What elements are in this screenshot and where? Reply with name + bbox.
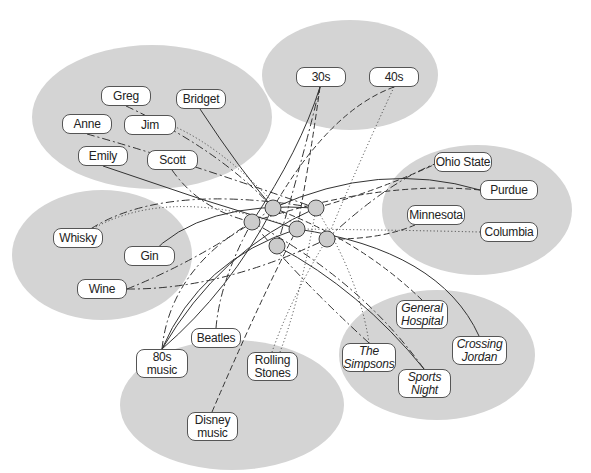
node-disney_music: Disney music [187, 412, 238, 441]
node-columbia: Columbia [480, 222, 538, 242]
hub-node-h2 [308, 200, 324, 216]
node-scott: Scott [147, 150, 198, 170]
node-crossing_jordan: Crossing Jordan [452, 336, 507, 365]
node-beatles: Beatles [191, 328, 241, 348]
node-emily: Emily [78, 146, 128, 166]
node-whisky: Whisky [53, 228, 103, 248]
node-greg: Greg [101, 86, 151, 106]
node-s30: 30s [296, 67, 346, 87]
hub-node-h4 [289, 221, 305, 237]
node-ohio: Ohio State [434, 152, 492, 172]
node-anne: Anne [62, 114, 112, 134]
node-s80s_music: 80s music [136, 349, 188, 378]
node-general_hospital: General Hospital [396, 300, 448, 329]
node-sports_night: Sports Night [398, 369, 451, 398]
node-simpsons: The Simpsons [342, 343, 396, 372]
affiliation-diagram: GregBridgetAnneJimEmilyScott30s40sOhio S… [0, 0, 591, 473]
hub-node-h5 [319, 231, 335, 247]
node-bridget: Bridget [176, 89, 226, 109]
hub-node-h1 [265, 200, 281, 216]
hub-node-h6 [269, 238, 285, 254]
node-minnesota: Minnesota [407, 205, 465, 225]
node-gin: Gin [124, 246, 175, 266]
node-jim: Jim [124, 115, 176, 135]
hub-node-h3 [244, 214, 260, 230]
node-rolling_stones: Rolling Stones [247, 352, 298, 381]
node-purdue: Purdue [480, 180, 538, 200]
node-wine: Wine [77, 279, 127, 299]
node-s40: 40s [369, 67, 419, 87]
